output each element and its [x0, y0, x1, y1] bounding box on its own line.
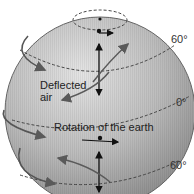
globe-illustration [0, 0, 194, 194]
deflected-air-line1: Deflected [40, 79, 86, 91]
lat-60n-label: 60° [171, 34, 188, 45]
deflected-air-line2: air [40, 91, 86, 103]
deflected-air-label: Deflected air [40, 79, 86, 103]
lat-60s-label: 60° [170, 160, 187, 171]
lat-equator-label: 0° [176, 97, 187, 108]
equator-dot [98, 136, 102, 140]
coriolis-diagram: Deflected air Rotation of the earth 60° … [0, 0, 194, 194]
rotation-label: Rotation of the earth [54, 122, 154, 133]
pole-dot [98, 17, 101, 20]
